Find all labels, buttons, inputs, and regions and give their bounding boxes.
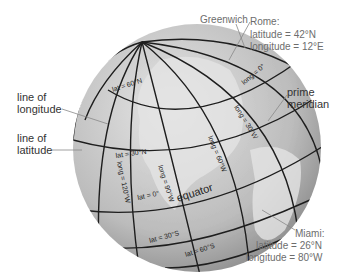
prime-meridian-line1: prime <box>287 86 315 98</box>
greenwich-label: Greenwich <box>200 14 248 25</box>
miami-name: Miami: <box>295 228 324 239</box>
rome-longitude: longitude = 12°E <box>250 41 324 52</box>
line-of-latitude-line1: line of <box>17 132 46 144</box>
line-of-longitude-line2: longitude <box>17 103 62 115</box>
rome-name: Rome: <box>250 16 279 27</box>
line-of-latitude-line2: latitude <box>17 144 52 156</box>
prime-meridian-line2: meridian <box>287 98 329 110</box>
miami-longitude: longitude = 80°W <box>246 252 323 263</box>
miami-latitude: latitude = 26°N <box>256 240 322 251</box>
rome-latitude: latitude = 42°N <box>250 29 316 40</box>
line-of-longitude-line1: line of <box>17 91 46 103</box>
